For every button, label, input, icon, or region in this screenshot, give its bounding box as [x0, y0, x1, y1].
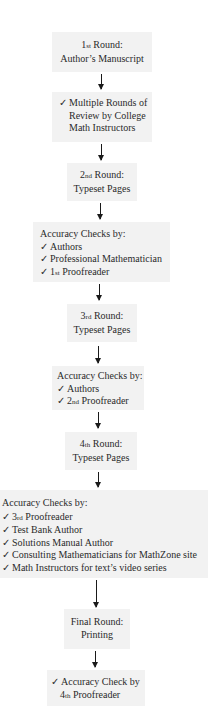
item-text: Test Bank Author — [12, 524, 82, 535]
line-text: Round: — [92, 169, 124, 180]
node-1-line-2: Author’s Manuscript — [52, 53, 152, 66]
node-10-line-1: ✓Accuracy Check by — [51, 676, 145, 689]
node-8-item-3: ✓Solutions Manual Author — [2, 537, 208, 550]
check-icon: ✓ — [2, 524, 10, 535]
node-4-item-1: ✓Authors — [40, 241, 170, 254]
node-final-accuracy-check: ✓Accuracy Check by 4th Proofreader — [47, 670, 145, 706]
item-text: Proofreader — [60, 266, 110, 277]
node-5-line-2: Typeset Pages — [67, 324, 137, 337]
node-2-line-2: Review by College — [59, 110, 152, 123]
node-6-item-1: ✓Authors — [57, 383, 144, 396]
node-3rd-round: 3rd Round: Typeset Pages — [67, 304, 137, 342]
item-text: Authors — [67, 383, 99, 394]
check-icon: ✓ — [40, 253, 48, 264]
line-text: Proofreader — [70, 689, 120, 700]
node-1-line-1: 1st Round: — [52, 39, 152, 53]
check-icon: ✓ — [57, 395, 65, 406]
node-3-line-1: 2nd Round: — [67, 169, 137, 183]
node-9-line-1: Final Round: — [64, 616, 130, 629]
line-text: Round: — [91, 310, 123, 321]
line-text: Round: — [90, 438, 122, 449]
node-accuracy-checks-1: Accuracy Checks by: ✓Authors ✓Profession… — [33, 222, 170, 282]
item-text: Solutions Manual Author — [12, 537, 113, 548]
node-10-line-2: 4th Proofreader — [51, 689, 145, 703]
arrow-n5-n6 — [98, 346, 99, 363]
node-7-line-2: Typeset Pages — [65, 452, 137, 465]
node-8-item-4: ✓Consulting Mathematicians for MathZone … — [2, 549, 208, 562]
arrow-n4-n5 — [99, 284, 100, 300]
check-icon: ✓ — [59, 97, 67, 108]
node-7-line-1: 4th Round: — [65, 438, 137, 452]
arrow-n9-n10 — [95, 651, 96, 667]
node-2-line-1: ✓Multiple Rounds of — [59, 97, 152, 110]
ordinal-suffix: nd — [85, 172, 92, 180]
arrow-n7-n8 — [98, 472, 99, 487]
check-icon: ✓ — [51, 676, 59, 687]
node-accuracy-checks-2: Accuracy Checks by: ✓Authors ✓2nd Proofr… — [52, 366, 144, 410]
arrow-n3-n4 — [100, 203, 101, 219]
check-icon: ✓ — [57, 383, 65, 394]
ordinal-suffix: nd — [72, 398, 79, 406]
node-5-line-1: 3rd Round: — [67, 310, 137, 324]
node-8-item-5: ✓Math Instructors for text’s video serie… — [2, 562, 208, 575]
check-icon: ✓ — [2, 562, 10, 573]
node-final-round: Final Round: Printing — [64, 609, 130, 649]
arrow-n8-n9 — [96, 580, 97, 607]
node-2-line-3: Math Instructors — [59, 122, 152, 135]
node-6-heading: Accuracy Checks by: — [57, 370, 144, 383]
node-2nd-round: 2nd Round: Typeset Pages — [67, 163, 137, 201]
check-icon: ✓ — [2, 537, 10, 548]
arrow-n6-n7 — [98, 412, 99, 428]
item-text: Math Instructors for text’s video series — [12, 562, 167, 573]
node-4-heading: Accuracy Checks by: — [40, 228, 170, 241]
item-text: Professional Mathematician — [50, 253, 162, 264]
node-8-heading: Accuracy Checks by: — [2, 497, 208, 510]
arrow-n1-n2 — [101, 74, 102, 89]
node-3-line-2: Typeset Pages — [67, 183, 137, 196]
node-4-item-3: ✓1st Proofreader — [40, 266, 170, 280]
node-8-item-2: ✓Test Bank Author — [2, 524, 208, 537]
item-text: Authors — [50, 241, 82, 252]
item-text: Proofreader — [79, 395, 129, 406]
line-text: Multiple Rounds of — [69, 97, 147, 108]
check-icon: ✓ — [40, 241, 48, 252]
check-icon: ✓ — [2, 549, 10, 560]
node-1st-round: 1st Round: Author’s Manuscript — [52, 32, 152, 72]
node-review-instructors: ✓Multiple Rounds of Review by College Ma… — [52, 92, 152, 142]
line-text: Accuracy Check by — [61, 676, 140, 687]
check-icon: ✓ — [40, 266, 48, 277]
check-icon: ✓ — [2, 511, 10, 522]
arrow-n2-n3 — [101, 144, 102, 160]
item-text: Proofreader — [23, 511, 73, 522]
node-8-item-1: ✓3rd Proofreader — [2, 511, 208, 525]
node-accuracy-checks-3: Accuracy Checks by: ✓3rd Proofreader ✓Te… — [0, 490, 208, 578]
line-text: Round: — [91, 39, 123, 50]
item-text: Consulting Mathematicians for MathZone s… — [12, 549, 197, 560]
node-4-item-2: ✓Professional Mathematician — [40, 253, 170, 266]
node-6-item-2: ✓2nd Proofreader — [57, 395, 144, 409]
node-4th-round: 4th Round: Typeset Pages — [65, 432, 137, 470]
node-9-line-2: Printing — [64, 629, 130, 642]
